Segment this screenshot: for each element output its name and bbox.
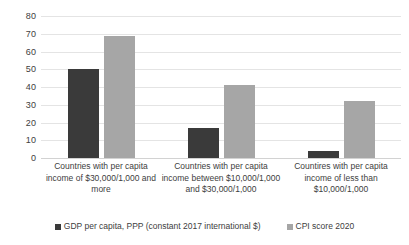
chart-legend: GDP per capita, PPP (constant 2017 inter…	[0, 222, 409, 242]
category-label-2: Countires with per capita income of less…	[281, 161, 401, 196]
y-axis-tick-label: 60	[0, 47, 36, 56]
category-label-1: Countries with per capita income between…	[161, 161, 281, 196]
legend-item-1[interactable]: CPI score 2020	[287, 222, 355, 231]
category-label-0: Countries with per capita income of $30,…	[41, 161, 161, 196]
bar-series-1-category-2[interactable]	[344, 101, 375, 158]
legend-item-0[interactable]: GDP per capita, PPP (constant 2017 inter…	[55, 222, 261, 231]
legend-label: GDP per capita, PPP (constant 2017 inter…	[64, 222, 261, 231]
axis-baseline	[41, 158, 401, 159]
bar-series-0-category-1[interactable]	[188, 128, 219, 158]
bars-layer	[41, 16, 401, 158]
y-axis-tick-label: 20	[0, 118, 36, 127]
bar-series-1-category-0[interactable]	[104, 36, 135, 158]
legend-swatch-icon	[287, 224, 293, 230]
bar-chart: 80706050403020100 Countries with per cap…	[0, 0, 409, 245]
bar-series-0-category-0[interactable]	[68, 69, 99, 158]
legend-label: CPI score 2020	[296, 222, 355, 231]
y-axis-tick-label: 40	[0, 83, 36, 92]
bar-series-0-category-2[interactable]	[308, 151, 339, 158]
y-axis-tick-label: 80	[0, 12, 36, 21]
y-axis: 80706050403020100	[0, 16, 36, 158]
y-axis-tick-label: 10	[0, 136, 36, 145]
x-axis-category-labels: Countries with per capita income of $30,…	[41, 161, 401, 217]
y-axis-tick-label: 50	[0, 65, 36, 74]
y-axis-tick-label: 30	[0, 100, 36, 109]
bar-series-1-category-1[interactable]	[224, 85, 255, 158]
legend-swatch-icon	[55, 224, 61, 230]
y-axis-tick-label: 70	[0, 29, 36, 38]
y-axis-tick-label: 0	[0, 154, 36, 163]
